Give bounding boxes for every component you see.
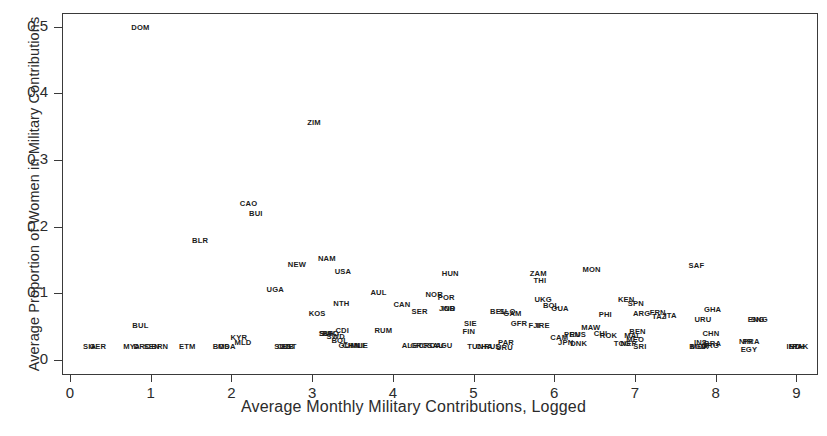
x-tick-mark [474,374,475,382]
x-tick-mark [635,374,636,382]
data-point-label: URU [496,344,513,352]
data-point-label: AGU [435,343,452,351]
data-point-label: MDA [218,343,236,351]
x-tick-label: 6 [550,384,558,401]
x-tick-label: 8 [711,384,719,401]
x-tick-mark [312,374,313,382]
data-point-label: EGY [741,346,758,354]
y-axis-title: Average Proportion of Women in Military … [26,8,42,380]
data-point-label: GHA [704,306,721,314]
data-point-label: PHI [599,311,612,319]
x-tick-mark [151,374,152,382]
y-tick-label: 0.5 [27,17,48,34]
data-point-label: GRG [701,343,719,351]
data-point-label: NIE [355,342,368,350]
data-point-label: CDI [335,327,349,335]
scatter-plot-figure: Average Proportion of Women in Military … [0,0,827,436]
data-point-label: GFR [511,320,527,328]
data-point-label: BLR [192,237,208,245]
data-point-label: GAM [503,311,521,319]
x-tick-label: 9 [792,384,800,401]
data-point-label: KOS [309,310,326,318]
data-point-label: NAM [318,255,336,263]
y-tick-label: 0.4 [27,83,48,100]
y-tick-mark [54,227,62,228]
y-tick-mark [54,160,62,161]
data-point-label: AUL [370,289,386,297]
y-tick-mark [54,293,62,294]
y-tick-label: 0 [40,350,48,367]
data-point-label: MLD [234,339,251,347]
y-tick-label: 0.1 [27,283,48,300]
y-tick-mark [54,27,62,28]
x-tick-mark [231,374,232,382]
data-point-label: FIN [463,328,476,336]
data-point-label: IRE [537,323,550,331]
data-point-label: DNK [570,341,587,349]
data-point-label: POR [438,295,455,303]
y-tick-label: 0.2 [27,217,48,234]
data-point-label: SAF [689,262,705,270]
data-point-label: CAN [393,301,410,309]
data-point-label: GER [89,343,106,351]
data-point-label: NTH [333,301,349,309]
data-point-label: SRI [633,343,646,351]
x-axis-title: Average Monthly Military Contributions, … [0,398,827,416]
data-point-label: ETH [789,343,805,351]
x-tick-mark [554,374,555,382]
data-point-label: SPN [628,301,644,309]
plot-area: DOMZIMCAOBUIBLRNAMNEWSAFUSAMONHUNZAMTHIU… [62,13,818,375]
y-tick-label: 0.3 [27,150,48,167]
data-point-label: CHN [702,330,719,338]
x-tick-label: 3 [308,384,316,401]
data-point-label: URU [694,316,711,324]
x-tick-label: 4 [389,384,397,401]
data-point-label: BRN [151,343,168,351]
x-tick-label: 7 [631,384,639,401]
data-point-label: DOM [131,24,149,32]
data-point-label: ARG [633,311,650,319]
data-point-label: RUM [374,327,392,335]
data-point-label: SER [412,309,428,317]
data-point-label: SNG [751,317,768,325]
x-tick-label: 1 [147,384,155,401]
data-point-label: HUN [442,270,459,278]
x-tick-label: 0 [66,384,74,401]
data-point-label: MON [582,266,600,274]
data-point-label: UGA [266,287,283,295]
data-point-label: CAO [240,200,257,208]
x-tick-mark [716,374,717,382]
data-point-label: GUA [551,305,568,313]
x-tick-mark [393,374,394,382]
x-tick-label: 2 [227,384,235,401]
data-point-label: ITA [665,312,677,320]
y-tick-mark [54,93,62,94]
data-point-label: BUL [132,323,148,331]
y-tick-mark [54,360,62,361]
x-tick-label: 5 [469,384,477,401]
data-point-label: NEW [288,261,306,269]
data-point-label: BUI [249,211,263,219]
data-point-label: JOR [439,305,455,313]
x-tick-mark [70,374,71,382]
data-point-label: EST [281,343,296,351]
data-point-label: ROK [600,332,617,340]
data-point-label: USA [335,269,351,277]
x-tick-mark [796,374,797,382]
data-point-label: ZIM [307,119,321,127]
data-point-label: ETM [179,343,195,351]
data-point-label: THI [534,277,547,285]
